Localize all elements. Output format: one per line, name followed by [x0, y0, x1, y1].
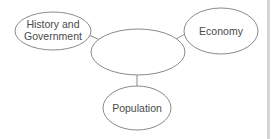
node-history-label-line1: History and [26, 18, 79, 30]
node-history-and-government[interactable]: History and Government [15, 12, 91, 50]
node-economy[interactable]: Economy [184, 8, 258, 54]
node-economy-label: Economy [199, 25, 244, 37]
node-population[interactable]: Population [103, 86, 171, 130]
concept-web-diagram: History and Government Economy Populatio… [0, 0, 273, 139]
node-history-label-line2: Government [24, 30, 82, 42]
right-divider-line [267, 0, 270, 139]
center-node[interactable] [91, 29, 185, 75]
connector-economy [176, 34, 185, 39]
node-population-label: Population [112, 102, 162, 114]
